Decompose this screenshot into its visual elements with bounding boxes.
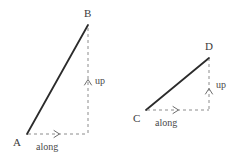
hypotenuse-ab [27,25,88,134]
triangle-left [27,25,92,138]
up-arrowhead-right [206,89,213,95]
vector-decomposition-diagram: A B along up C D along up [0,0,245,164]
vertex-label-c: C [133,113,140,124]
diagram-canvas [0,0,245,164]
component-label-up-right: up [216,80,226,90]
hypotenuse-cd [146,58,209,110]
triangle-right [146,58,213,114]
vertex-label-a: A [13,137,21,148]
component-label-up-left: up [95,76,105,86]
component-label-along-right: along [155,118,177,128]
component-label-along-left: along [36,142,58,152]
vertex-label-d: D [205,41,213,52]
vertex-label-b: B [84,8,91,19]
